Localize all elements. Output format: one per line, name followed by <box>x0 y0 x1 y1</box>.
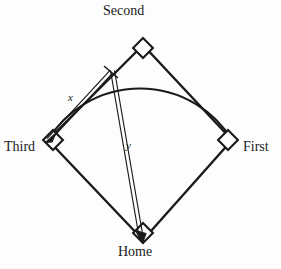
baseline-first-to-home <box>143 140 232 240</box>
baseline-third-to-second <box>48 45 143 140</box>
base-label-home: Home <box>118 245 152 259</box>
base-marker-second <box>133 38 153 58</box>
base-marker-first <box>218 130 238 150</box>
diagram-canvas <box>0 0 281 269</box>
base-label-second: Second <box>103 4 144 18</box>
measure-label-x: x <box>68 92 73 103</box>
base-label-first: First <box>243 140 269 154</box>
base-label-third: Third <box>4 140 35 154</box>
baseline-second-to-first <box>143 45 232 140</box>
measure-y-line <box>111 71 147 244</box>
baseball-diamond-figure: Second First Home Third x y <box>0 0 281 269</box>
outfield-arc <box>48 89 232 140</box>
measure-label-y: y <box>126 140 131 151</box>
